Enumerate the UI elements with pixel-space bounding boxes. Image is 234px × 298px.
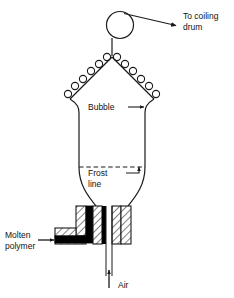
guide-rollers-right: [113, 53, 159, 97]
molten-polymer-label-line1: Molten: [5, 230, 31, 240]
polymer-annulus-right: [102, 206, 106, 244]
die-body-outer-left: [76, 206, 86, 236]
take-up-roller-icon: [107, 12, 134, 39]
bubble-wall-right: [128, 99, 154, 206]
frost-line-label-line2: line: [88, 179, 102, 189]
collapsing-frame-left: [70, 57, 112, 99]
die-body-outer-right: [121, 206, 131, 244]
molten-polymer-label-line2: polymer: [5, 241, 35, 251]
guide-rollers-left: [64, 53, 110, 97]
to-coiling-drum-label-line1: To coiling: [183, 11, 219, 21]
die-mandrel-left: [93, 206, 102, 244]
die-mandrel-right: [112, 206, 121, 244]
blown-film-diagram: To coiling drum Bubble Frost line Molten…: [0, 0, 234, 298]
collapsing-frame-right: [112, 57, 154, 99]
air-label: Air: [118, 280, 129, 290]
bubble-label: Bubble: [88, 102, 115, 112]
bubble-wall-left: [70, 99, 96, 206]
molten-polymer-channel: [55, 206, 93, 243]
process-schematic-canvas: To coiling drum Bubble Frost line Molten…: [0, 0, 234, 298]
die-assembly: [55, 206, 131, 276]
die-inlet-upper-wall: [55, 228, 76, 236]
frost-line-label-line1: Frost: [88, 168, 108, 178]
to-coiling-drum-label-line2: drum: [183, 22, 202, 32]
frost-line-pointer-arrow: [126, 167, 139, 173]
